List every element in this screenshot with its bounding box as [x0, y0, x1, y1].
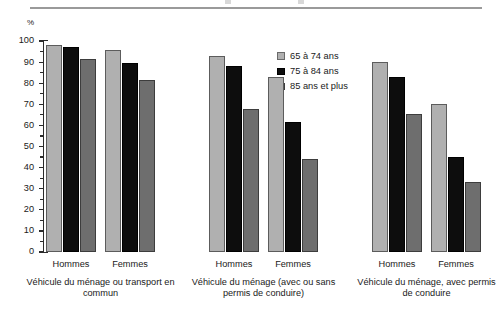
- y-axis-unit-label: %: [27, 18, 34, 27]
- legend-label-65-74: 65 à 74 ans: [290, 49, 339, 63]
- y-tick-major: [39, 209, 44, 210]
- y-tick-label: 50: [8, 142, 34, 151]
- y-tick-major: [39, 146, 44, 147]
- y-tick-major: [39, 40, 44, 41]
- bar: [243, 109, 260, 252]
- legend-swatch-icon-65-74: [277, 52, 285, 60]
- y-axis-bottom-cap: [43, 252, 48, 253]
- y-tick-label: 40: [8, 163, 34, 172]
- y-tick-major: [39, 104, 44, 105]
- y-tick-major: [39, 230, 44, 231]
- bar: [465, 182, 482, 252]
- bar: [139, 80, 156, 252]
- y-tick-minor: [40, 135, 43, 136]
- bar: [80, 59, 97, 252]
- bar: [431, 104, 448, 252]
- y-tick-minor: [40, 199, 43, 200]
- y-tick-minor: [40, 114, 43, 115]
- bar: [406, 114, 423, 252]
- y-tick-minor: [40, 156, 43, 157]
- y-tick-major: [39, 251, 44, 252]
- bar: [105, 50, 122, 252]
- x-group-label: Véhicule du ménage ou transport en commu…: [26, 277, 176, 300]
- legend-label-75-84: 75 à 84 ans: [290, 64, 339, 78]
- x-group-label: Véhicule du ménage (avec ou sans permis …: [179, 277, 349, 300]
- y-tick-label: 70: [8, 100, 34, 109]
- legend-label-85-plus: 85 ans et plus: [290, 79, 348, 93]
- bar: [46, 45, 63, 252]
- y-tick-minor: [40, 241, 43, 242]
- y-tick-major: [39, 83, 44, 84]
- y-tick-minor: [40, 72, 43, 73]
- bar: [122, 63, 139, 252]
- y-tick-minor: [40, 178, 43, 179]
- header-rule: [30, 7, 482, 9]
- y-tick-minor: [40, 220, 43, 221]
- bar: [209, 56, 226, 252]
- header-speck-right: [298, 0, 304, 4]
- bar: [226, 66, 243, 252]
- y-tick-major: [39, 125, 44, 126]
- y-tick-label: 90: [8, 58, 34, 67]
- bar: [389, 77, 406, 252]
- bar: [372, 62, 389, 252]
- y-tick-label: 20: [8, 205, 34, 214]
- bar: [63, 47, 80, 252]
- legend-swatch-icon-75-84: [277, 68, 285, 76]
- x-category-label: Femmes: [416, 259, 496, 269]
- y-tick-label: 100: [8, 36, 34, 45]
- y-tick-label: 80: [8, 79, 34, 88]
- x-category-label: Femmes: [253, 259, 333, 269]
- y-tick-label: 60: [8, 121, 34, 130]
- y-tick-label: 30: [8, 184, 34, 193]
- y-tick-major: [39, 62, 44, 63]
- y-tick-major: [39, 188, 44, 189]
- y-tick-major: [39, 167, 44, 168]
- y-tick-label: 0: [8, 247, 34, 256]
- x-category-label: Femmes: [90, 259, 170, 269]
- y-tick-minor: [40, 93, 43, 94]
- y-tick-label: 10: [8, 226, 34, 235]
- bar: [302, 159, 319, 252]
- x-group-label: Véhicule du ménage, avec permis de condu…: [352, 277, 500, 300]
- y-tick-minor: [40, 51, 43, 52]
- bar: [448, 157, 465, 252]
- header-speck-left: [225, 0, 231, 4]
- bar: [285, 122, 302, 252]
- bar: [268, 77, 285, 252]
